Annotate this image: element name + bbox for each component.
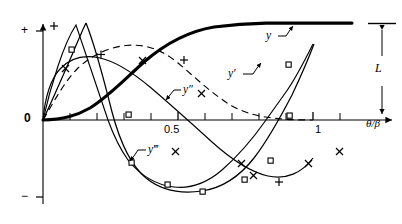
lift-label: L xyxy=(375,62,382,74)
marker-square xyxy=(165,182,170,187)
leader-y-triple-prime xyxy=(130,150,146,161)
marker-square xyxy=(286,62,291,67)
marker-cross xyxy=(305,160,312,167)
curve-label-y-double-prime: y″ xyxy=(183,84,193,96)
markers-y-triple-prime xyxy=(69,47,292,194)
plot-svg xyxy=(0,0,402,224)
curve-label-y: y xyxy=(266,30,271,42)
y-axis-plus-label: + xyxy=(21,24,28,36)
marker-square xyxy=(242,177,247,182)
figure-canvas: + − 0 0.5 1 θ/β L y y′ y″ y‴ xyxy=(0,0,402,224)
marker-square xyxy=(287,113,292,118)
curve-label-y-prime: y′ xyxy=(228,68,236,80)
lift-dimension xyxy=(368,24,396,115)
marker-plus xyxy=(180,56,188,64)
y-axis-minus-label: − xyxy=(21,190,28,202)
marker-cross xyxy=(336,148,343,155)
marker-plus xyxy=(275,178,283,186)
x-axis-label: θ/β xyxy=(366,118,380,129)
curve-y xyxy=(43,23,352,120)
leader-y-double-prime xyxy=(166,90,181,100)
marker-square xyxy=(126,112,131,117)
curve-label-y-triple-prime: y‴ xyxy=(148,144,158,156)
x-axis-ticks xyxy=(70,112,340,120)
marker-cross xyxy=(172,148,179,155)
y-axis-ticks xyxy=(36,31,43,197)
curve-y-triple-prime-basin xyxy=(86,23,314,192)
marker-cross xyxy=(250,172,257,179)
leader-y-prime xyxy=(243,63,261,74)
curve-y-triple-prime-main xyxy=(43,23,86,120)
marker-plus xyxy=(50,22,58,30)
x-tick-label-half: 0.5 xyxy=(164,124,179,135)
origin-label: 0 xyxy=(24,112,31,124)
marker-square xyxy=(268,158,273,163)
leader-y xyxy=(278,26,293,36)
marker-square xyxy=(69,47,74,52)
marker-square xyxy=(200,189,205,194)
marker-cross xyxy=(198,90,205,97)
leader-lines xyxy=(130,26,293,161)
x-tick-label-one: 1 xyxy=(315,124,321,135)
